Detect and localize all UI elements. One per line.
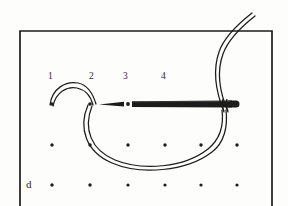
needle-shaft bbox=[132, 101, 240, 108]
figure-drawing bbox=[0, 0, 288, 206]
grid-dot bbox=[235, 183, 238, 186]
stitch-number-1: 1 bbox=[48, 72, 53, 82]
grid-dot bbox=[199, 143, 202, 146]
grid-dot bbox=[88, 102, 92, 106]
grid-dot bbox=[126, 183, 129, 186]
grid-dot bbox=[235, 143, 238, 146]
grid-dot bbox=[126, 102, 130, 106]
stitch-number-4: 4 bbox=[161, 72, 166, 82]
grid-dot bbox=[199, 183, 202, 186]
figure-label: d bbox=[26, 179, 32, 190]
grid-dot bbox=[126, 143, 129, 146]
grid-dot bbox=[163, 143, 166, 146]
stitch-number-2: 2 bbox=[89, 72, 94, 82]
grid-dot bbox=[50, 183, 53, 186]
embroidery-stitch-diagram: 1 2 3 4 d bbox=[0, 0, 288, 206]
grid-dot bbox=[163, 183, 166, 186]
stitch-number-3: 3 bbox=[123, 72, 128, 82]
grid-dot bbox=[50, 143, 53, 146]
grid-dot bbox=[88, 183, 91, 186]
